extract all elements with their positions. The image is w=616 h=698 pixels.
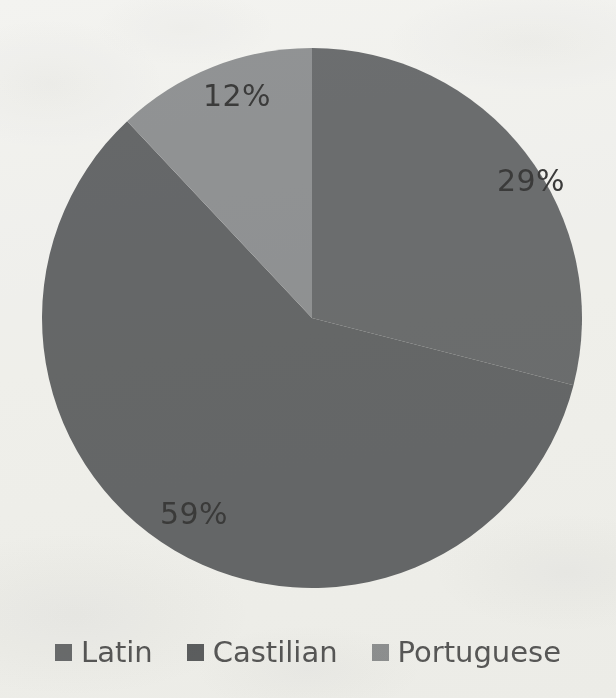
legend-label-castilian: Castilian (213, 638, 338, 667)
legend-item-latin[interactable]: Latin (55, 638, 153, 667)
legend-swatch-icon-latin (55, 644, 72, 661)
legend-swatch-icon-castilian (187, 644, 204, 661)
legend-swatch-icon-portuguese (372, 644, 389, 661)
pie-graphic (0, 0, 616, 620)
pie-chart: 29% 59% 12% (0, 0, 616, 620)
legend-label-portuguese: Portuguese (398, 638, 561, 667)
legend-item-castilian[interactable]: Castilian (187, 638, 338, 667)
legend-label-latin: Latin (81, 638, 153, 667)
legend-item-portuguese[interactable]: Portuguese (372, 638, 561, 667)
pie-label-portuguese: 12% (203, 78, 271, 113)
chart-legend: Latin Castilian Portuguese (0, 626, 616, 678)
pie-label-castilian: 59% (160, 496, 228, 531)
pie-label-latin: 29% (497, 163, 565, 198)
